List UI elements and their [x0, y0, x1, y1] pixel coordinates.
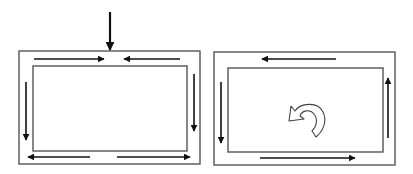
left-flow-arrows [26, 59, 194, 157]
counterclockwise-rotation-icon [289, 104, 325, 137]
left-outer-frame [19, 51, 200, 164]
left-inner-frame [33, 66, 187, 151]
flow-diagram [0, 0, 413, 174]
left-panel [19, 12, 200, 164]
right-panel [214, 52, 395, 165]
